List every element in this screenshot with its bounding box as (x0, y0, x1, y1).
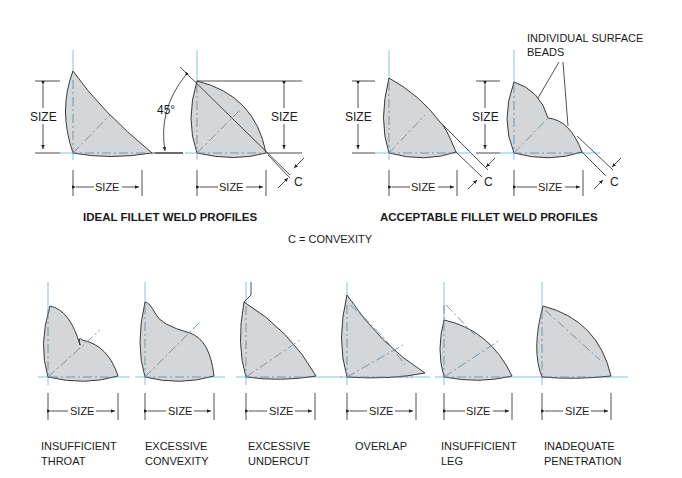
fillet-weld-diagram: SIZE SIZE 45° SIZE SIZE C IDEAL FILLET W… (0, 0, 682, 478)
size-label-v: SIZE (345, 110, 372, 124)
defect-label-line1: EXCESSIVE (145, 440, 207, 452)
defect-insufficient-leg: SIZE INSUFFICIENT LEG (435, 282, 530, 467)
size-label: SIZE (269, 405, 293, 417)
size-label: SIZE (168, 405, 192, 417)
callout-line2: BEADS (527, 46, 564, 58)
ideal-profiles-title: IDEAL FILLET WELD PROFILES (83, 211, 258, 223)
defect-excessive-convexity: SIZE EXCESSIVE CONVEXITY (135, 282, 225, 467)
size-label: SIZE (565, 405, 589, 417)
defect-insufficient-throat: SIZE INSUFFICIENT THROAT (38, 282, 130, 467)
defect-label-line2: CONVEXITY (145, 455, 209, 467)
size-label: SIZE (70, 405, 94, 417)
defect-label-line1: EXCESSIVE (248, 440, 310, 452)
size-label-h: SIZE (95, 181, 119, 193)
defect-inadequate-penetration: SIZE INADEQUATE PENETRATION (530, 282, 628, 467)
ideal-profile-convex: 45° SIZE SIZE C (155, 50, 304, 196)
callout-line1: INDIVIDUAL SURFACE (527, 32, 643, 44)
defect-label-line2: THROAT (41, 455, 86, 467)
angle-label: 45° (157, 103, 175, 117)
acceptable-profiles-title: ACCEPTABLE FILLET WELD PROFILES (380, 211, 598, 223)
convexity-label: C (294, 175, 303, 189)
defect-overlap: SIZE OVERLAP (340, 282, 430, 452)
size-label: SIZE (466, 405, 490, 417)
defect-label-line1: INSUFFICIENT (41, 440, 117, 452)
size-label-v: SIZE (30, 110, 57, 124)
defect-label-line1: OVERLAP (355, 440, 407, 452)
size-label-h: SIZE (411, 181, 435, 193)
size-label-h: SIZE (538, 181, 562, 193)
defect-label-line2: LEG (441, 455, 463, 467)
size-label-v: SIZE (271, 110, 298, 124)
size-label: SIZE (369, 405, 393, 417)
defect-label-line1: INSUFFICIENT (441, 440, 517, 452)
defect-label-line2: PENETRATION (544, 455, 621, 467)
defect-excessive-undercut: SIZE EXCESSIVE UNDERCUT (236, 282, 342, 467)
size-label-h: SIZE (219, 181, 243, 193)
defect-label-line1: INADEQUATE (544, 440, 615, 452)
size-label-v: SIZE (472, 110, 499, 124)
convexity-label: C (610, 175, 619, 189)
convexity-label: C (484, 175, 493, 189)
ideal-profile-concave: SIZE SIZE (30, 50, 183, 196)
defect-label-line2: UNDERCUT (248, 455, 310, 467)
convexity-legend: C = CONVEXITY (288, 233, 373, 245)
acceptable-profile-2: SIZE SIZE C INDIVIDUAL SURFACE BEADS (471, 32, 643, 196)
